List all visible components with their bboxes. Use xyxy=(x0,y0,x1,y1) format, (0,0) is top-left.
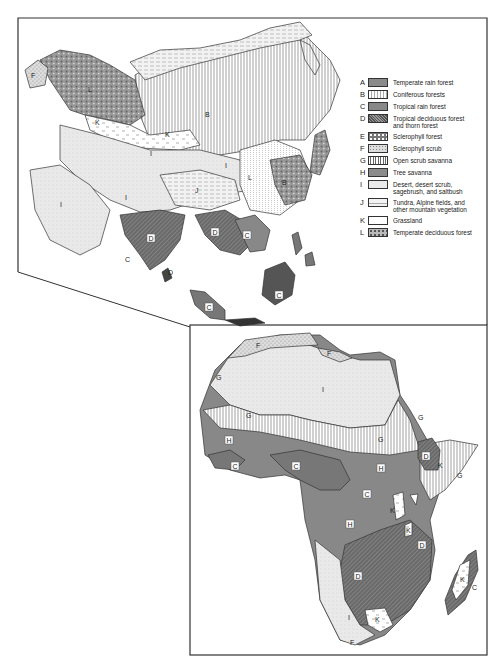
legend-item-i: I Desert, desert scrub, sagebrush, and s… xyxy=(360,180,495,195)
swatch-sclerophyll-scrub xyxy=(368,144,388,153)
swatch-open-scrub-savanna xyxy=(368,156,388,165)
svg-text:K: K xyxy=(438,462,443,469)
svg-text:D: D xyxy=(168,269,173,276)
svg-text:B: B xyxy=(205,111,210,118)
svg-text:C: C xyxy=(207,304,212,311)
svg-text:J: J xyxy=(195,187,199,194)
svg-text:I: I xyxy=(60,201,62,208)
svg-text:F: F xyxy=(327,350,331,357)
svg-text:I: I xyxy=(225,162,227,169)
svg-text:D: D xyxy=(356,573,361,580)
svg-text:G: G xyxy=(378,436,383,443)
legend-item-h: H Tree savanna xyxy=(360,168,495,177)
svg-text:K: K xyxy=(390,507,395,514)
svg-text:L: L xyxy=(248,174,252,181)
svg-text:I: I xyxy=(150,150,152,157)
legend-item-g: G Open scrub savanna xyxy=(360,156,495,165)
svg-text:L: L xyxy=(88,86,92,93)
svg-text:K: K xyxy=(165,131,170,138)
swatch-coniferous-forests xyxy=(368,90,388,99)
legend-item-k: K Grassland xyxy=(360,216,495,225)
legend-item-l: L Temperate deciduous forest xyxy=(360,228,495,237)
legend-item-e: E Sclerophyll forest xyxy=(360,132,495,141)
svg-text:B: B xyxy=(282,179,287,186)
svg-text:K: K xyxy=(95,119,100,126)
svg-text:H: H xyxy=(227,437,232,444)
svg-text:C: C xyxy=(125,256,130,263)
legend-item-c: C Tropical rain forest xyxy=(360,102,495,111)
svg-text:K: K xyxy=(375,616,380,623)
svg-text:C: C xyxy=(277,292,282,299)
swatch-desert xyxy=(368,180,388,189)
swatch-temperate-deciduous xyxy=(368,228,388,237)
svg-text:G: G xyxy=(216,374,221,381)
svg-text:C: C xyxy=(245,232,250,239)
svg-text:F: F xyxy=(256,342,260,349)
svg-text:G: G xyxy=(457,472,462,479)
biome-legend: A Temperate rain forest B Coniferous for… xyxy=(360,78,495,240)
svg-text:C: C xyxy=(294,463,299,470)
svg-text:H: H xyxy=(379,465,384,472)
legend-item-b: B Coniferous forests xyxy=(360,90,495,99)
svg-text:I: I xyxy=(348,614,350,621)
svg-text:C: C xyxy=(233,463,238,470)
svg-text:G: G xyxy=(246,412,251,419)
swatch-tropical-deciduous xyxy=(368,114,388,123)
svg-text:D: D xyxy=(420,542,425,549)
swatch-grassland xyxy=(368,216,388,225)
legend-item-j: J Tundra, Alpine fields, and other mount… xyxy=(360,198,495,213)
svg-text:D: D xyxy=(149,235,154,242)
svg-text:H: H xyxy=(348,521,353,528)
svg-text:I: I xyxy=(322,386,324,393)
swatch-tundra xyxy=(368,198,388,207)
legend-item-a: A Temperate rain forest xyxy=(360,78,495,87)
svg-text:C: C xyxy=(472,584,477,591)
svg-text:F: F xyxy=(350,639,354,646)
svg-text:K: K xyxy=(460,576,465,583)
swatch-tropical-rain-forest xyxy=(368,102,388,111)
swatch-sclerophyll-forest xyxy=(368,132,388,141)
svg-text:D: D xyxy=(213,229,218,236)
svg-text:F: F xyxy=(31,72,35,79)
svg-text:C: C xyxy=(365,491,370,498)
swatch-temperate-rain-forest xyxy=(368,78,388,87)
legend-item-d: D Tropical deciduous forest and thorn fo… xyxy=(360,114,495,129)
asia-map xyxy=(25,22,340,326)
swatch-tree-savanna xyxy=(368,168,388,177)
svg-text:D: D xyxy=(424,453,429,460)
legend-item-f: F Sclerophyll scrub xyxy=(360,144,495,153)
svg-text:K: K xyxy=(406,527,411,534)
svg-text:I: I xyxy=(125,194,127,201)
svg-text:G: G xyxy=(418,414,423,421)
africa-map xyxy=(200,333,478,645)
